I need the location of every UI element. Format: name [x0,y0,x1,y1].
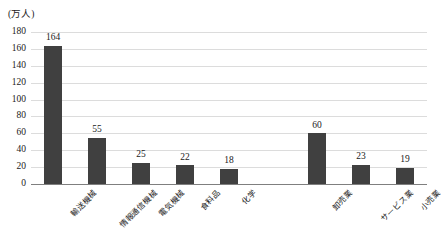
bar-slot: 22 [163,32,207,184]
bar [88,138,106,184]
x-axis-category-label: 小売業 [417,187,442,212]
bar [308,133,326,184]
bar [352,165,370,184]
bar-value-label: 25 [136,150,146,160]
bar-value-label: 55 [92,125,102,135]
x-axis-category-label: 化学 [239,187,258,206]
bar-slot: 164 [31,32,75,184]
bar-slot-empty [251,32,295,184]
x-axis-category-label: 食料品 [197,187,222,212]
bar [44,46,62,184]
bar [220,169,238,184]
y-axis-unit-label: (万人) [8,6,34,20]
bar [132,163,150,184]
y-axis-tick-label: 40 [17,145,27,155]
x-axis-labels: 輸送機械情報通信機械電気機械食料品化学卸売業サービス業小売業 [31,184,427,245]
y-axis-tick-label: 80 [17,112,27,122]
bar-slot: 19 [383,32,427,184]
plot-area: 180160140120100806040200 164552522186023… [31,32,427,184]
y-axis-tick-label: 140 [12,61,26,71]
bar-value-label: 164 [46,33,60,43]
y-axis-tick-label: 160 [12,44,26,54]
y-axis-tick-label: 180 [12,27,26,37]
y-axis-tick-label: 0 [21,179,26,189]
y-axis-tick-label: 20 [17,162,27,172]
bar-slot: 60 [295,32,339,184]
bar-slot: 25 [119,32,163,184]
x-axis-category-label: 輸送機械 [68,187,99,218]
x-axis-category-label: サービス業 [378,187,415,224]
y-axis-tick-label: 60 [17,129,27,139]
bars-container: 16455252218602319 [31,32,427,184]
bar-slot: 18 [207,32,251,184]
y-axis-tick-label: 120 [12,78,26,88]
bar-value-label: 18 [224,156,234,166]
bar [176,165,194,184]
x-axis-category-label: 情報通信機械 [116,187,159,230]
bar-value-label: 60 [312,121,322,131]
bar-value-label: 22 [180,153,190,163]
bar-slot: 23 [339,32,383,184]
x-axis-category-label: 卸売業 [329,187,354,212]
bar [396,168,414,184]
bar-value-label: 19 [400,155,410,165]
bar-value-label: 23 [356,152,366,162]
y-axis-tick-label: 100 [12,95,26,105]
x-axis-category-label: 電気機械 [156,187,187,218]
bar-slot: 55 [75,32,119,184]
